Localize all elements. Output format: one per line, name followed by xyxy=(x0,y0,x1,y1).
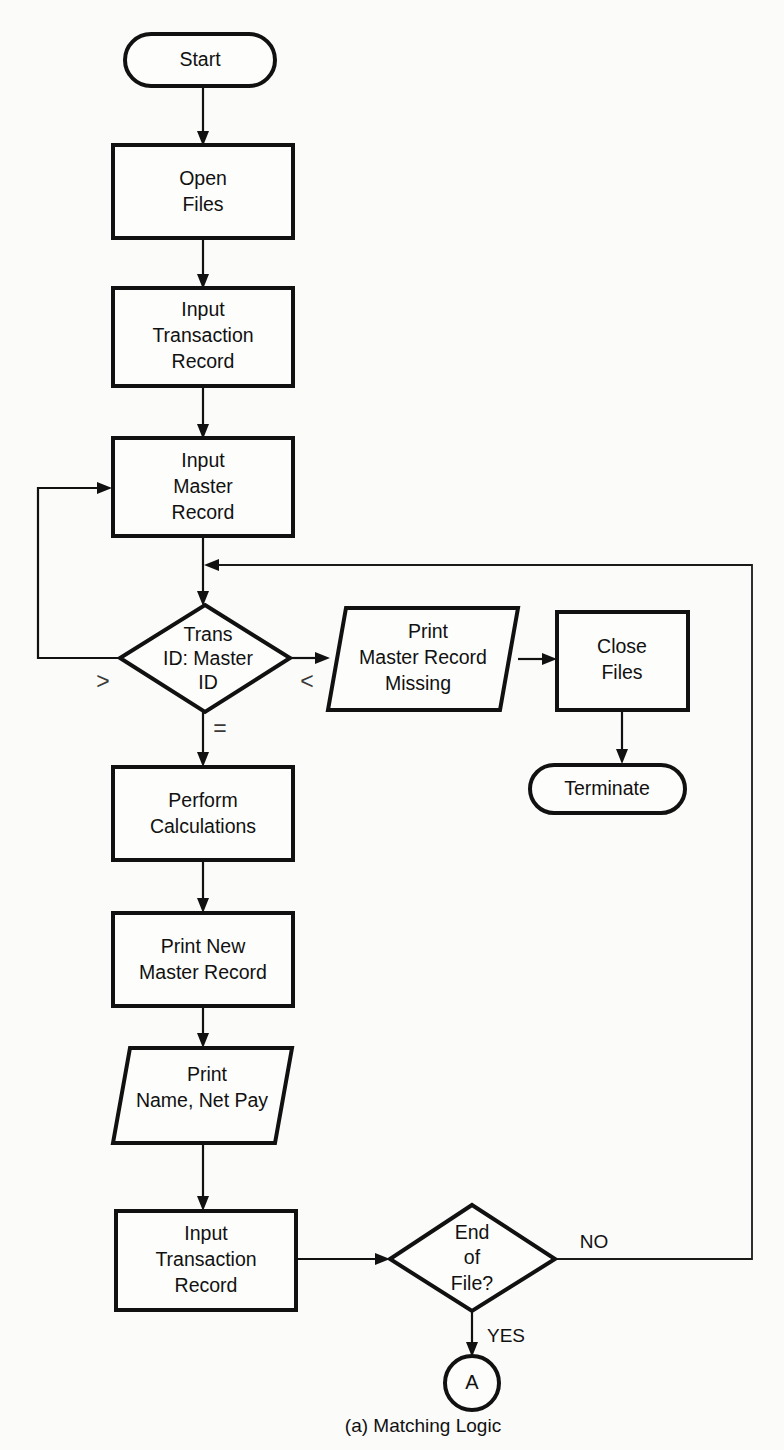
node-print-name-net-pay-line1: Print xyxy=(187,1063,228,1085)
node-input-master-line1: Input xyxy=(181,449,225,471)
node-input-transaction-record-bottom[interactable]: Input Transaction Record xyxy=(116,1211,296,1310)
node-close-files-line2: Files xyxy=(601,661,642,683)
node-perform-calculations-line2: Calculations xyxy=(150,815,256,837)
flowchart-canvas: Start Open Files Input Transaction Recor… xyxy=(0,0,784,1450)
edge-close-files-to-terminate xyxy=(616,710,628,764)
edge-start-to-open-files xyxy=(197,86,209,146)
edge-print-new-master-to-print-name-net-pay xyxy=(197,1006,209,1048)
edge-print-missing-to-close-files xyxy=(518,653,557,665)
node-input-transaction-record-top[interactable]: Input Transaction Record xyxy=(113,288,293,386)
node-decision-trans-line2: ID: Master xyxy=(163,647,253,669)
branch-label-yes: YES xyxy=(487,1325,525,1346)
node-open-files-line1: Open xyxy=(179,167,227,189)
node-print-new-master-line1: Print New xyxy=(161,935,246,957)
edge-decision-equals-to-perform-calculations xyxy=(197,712,209,767)
node-connector-a-label: A xyxy=(465,1371,479,1393)
flowchart-figure: Start Open Files Input Transaction Recor… xyxy=(0,0,784,1450)
node-end-of-file-line2: of xyxy=(464,1246,481,1268)
node-decision-trans-line3: ID xyxy=(198,671,218,693)
node-print-missing-line2: Master Record xyxy=(359,646,487,668)
edge-open-files-to-input-transaction xyxy=(197,238,209,289)
node-input-transaction-top-line2: Transaction xyxy=(152,324,253,346)
node-print-new-master-line2: Master Record xyxy=(139,961,267,983)
node-terminate[interactable]: Terminate xyxy=(530,765,685,813)
node-connector-a[interactable]: A xyxy=(445,1356,499,1410)
node-print-missing-line1: Print xyxy=(408,620,449,642)
branch-label-equals: = xyxy=(213,715,226,741)
node-input-transaction-top-line3: Record xyxy=(172,350,235,372)
node-input-transaction-bottom-line2: Transaction xyxy=(155,1248,256,1270)
node-open-files-line2: Files xyxy=(182,193,223,215)
branch-label-greater-than: > xyxy=(96,668,109,694)
node-input-master-line3: Record xyxy=(172,501,235,523)
node-terminate-label: Terminate xyxy=(564,777,650,799)
node-print-master-record-missing[interactable]: Print Master Record Missing xyxy=(328,608,518,710)
node-decision-trans-id-master-id[interactable]: Trans ID: Master ID xyxy=(120,605,290,712)
branch-label-no: NO xyxy=(580,1231,609,1252)
node-close-files-line1: Close xyxy=(597,635,647,657)
node-start-label: Start xyxy=(179,48,221,70)
edge-input-transaction-to-input-master xyxy=(197,385,209,439)
edge-decision-greater-loop xyxy=(38,482,120,658)
node-print-missing-line3: Missing xyxy=(385,672,451,694)
node-print-name-net-pay-line2: Name, Net Pay xyxy=(136,1089,268,1111)
edge-perform-calculations-to-print-new-master xyxy=(197,860,209,913)
edge-input-transaction-bottom-to-end-of-file xyxy=(296,1253,390,1265)
branch-label-less-than: < xyxy=(300,668,313,694)
edge-decision-less-to-print-missing xyxy=(290,652,330,664)
node-input-transaction-top-line1: Input xyxy=(181,298,225,320)
node-print-name-net-pay[interactable]: Print Name, Net Pay xyxy=(113,1048,292,1143)
node-close-files[interactable]: Close Files xyxy=(557,612,688,710)
edge-input-master-to-decision xyxy=(197,536,209,606)
node-print-new-master-record[interactable]: Print New Master Record xyxy=(113,913,293,1006)
node-end-of-file-line1: End xyxy=(455,1221,490,1243)
node-input-transaction-bottom-line1: Input xyxy=(184,1222,228,1244)
node-start[interactable]: Start xyxy=(125,34,275,86)
edge-print-name-net-pay-to-input-transaction-bottom xyxy=(197,1143,209,1211)
node-perform-calculations[interactable]: Perform Calculations xyxy=(113,767,293,860)
node-decision-end-of-file[interactable]: End of File? xyxy=(390,1205,555,1311)
node-end-of-file-line3: File? xyxy=(451,1272,493,1294)
node-input-transaction-bottom-line3: Record xyxy=(175,1274,238,1296)
node-input-master-record[interactable]: Input Master Record xyxy=(113,438,293,536)
figure-caption: (a) Matching Logic xyxy=(345,1415,501,1436)
edge-end-of-file-yes-to-connector-a xyxy=(466,1308,478,1357)
node-open-files[interactable]: Open Files xyxy=(113,145,293,238)
node-perform-calculations-line1: Perform xyxy=(168,789,237,811)
node-input-master-line2: Master xyxy=(173,475,233,497)
node-decision-trans-line1: Trans xyxy=(183,623,232,645)
